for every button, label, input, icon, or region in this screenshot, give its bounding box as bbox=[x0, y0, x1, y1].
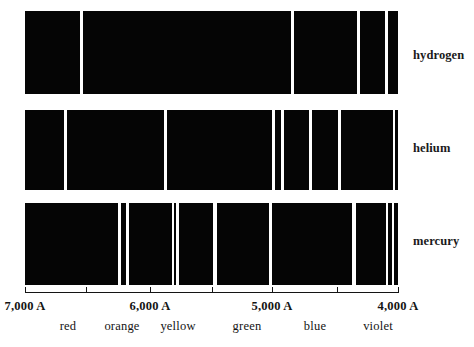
axis-tick-0 bbox=[25, 287, 26, 293]
axis-tick-5 bbox=[337, 287, 338, 293]
axis-tick-label-4000: 4,000 A bbox=[378, 299, 419, 314]
axis-tick-label-7000: 7,000 A bbox=[5, 299, 46, 314]
axis-tick-3 bbox=[212, 287, 213, 293]
wavelength-axis: 7,000 A6,000 A5,000 A4,000 A redorangeye… bbox=[0, 0, 474, 347]
axis-tick-1 bbox=[86, 287, 87, 293]
color-band-label-violet: violet bbox=[363, 319, 393, 334]
color-band-label-red: red bbox=[60, 319, 77, 334]
color-band-label-green: green bbox=[233, 319, 262, 334]
axis-tick-6 bbox=[398, 287, 399, 293]
color-band-label-yellow: yellow bbox=[160, 319, 195, 334]
color-band-label-orange: orange bbox=[104, 319, 139, 334]
axis-tick-2 bbox=[150, 287, 151, 293]
spectral-lines-figure: hydrogenheliummercury 7,000 A6,000 A5,00… bbox=[0, 0, 474, 347]
axis-tick-4 bbox=[272, 287, 273, 293]
axis-tick-label-5000: 5,000 A bbox=[252, 299, 293, 314]
axis-tick-label-6000: 6,000 A bbox=[130, 299, 171, 314]
color-band-label-blue: blue bbox=[304, 319, 326, 334]
